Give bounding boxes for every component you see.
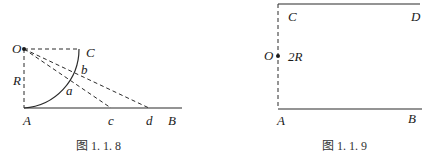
point-O — [276, 54, 280, 58]
caption-fig-1-1-9: 图 1. 1. 9 — [322, 139, 367, 153]
label-C: C — [288, 9, 297, 24]
dashed-line-O-c — [24, 49, 111, 108]
quarter-arc-A-C — [24, 49, 79, 108]
label-O: O — [264, 48, 274, 63]
label-B: B — [408, 111, 416, 126]
figure-1-1-8: O C R b a A c d B 图 1. 1. 8 — [12, 41, 182, 153]
label-D: D — [410, 9, 421, 24]
label-R: R — [12, 73, 21, 88]
label-2R: 2R — [288, 49, 303, 64]
label-O: O — [12, 41, 22, 56]
label-A: A — [22, 113, 31, 128]
caption-fig-1-1-8: 图 1. 1. 8 — [76, 139, 121, 153]
figure-1-1-9: C D O 2R A B 图 1. 1. 9 — [264, 4, 422, 153]
label-A: A — [276, 113, 285, 128]
label-d: d — [146, 113, 153, 128]
point-O — [22, 47, 26, 51]
label-B: B — [168, 113, 176, 128]
label-c: c — [108, 113, 114, 128]
label-b: b — [81, 62, 88, 77]
label-C: C — [86, 45, 95, 60]
diagram-canvas: O C R b a A c d B 图 1. 1. 8 C D O 2R A B… — [0, 0, 433, 161]
label-a: a — [66, 83, 73, 98]
